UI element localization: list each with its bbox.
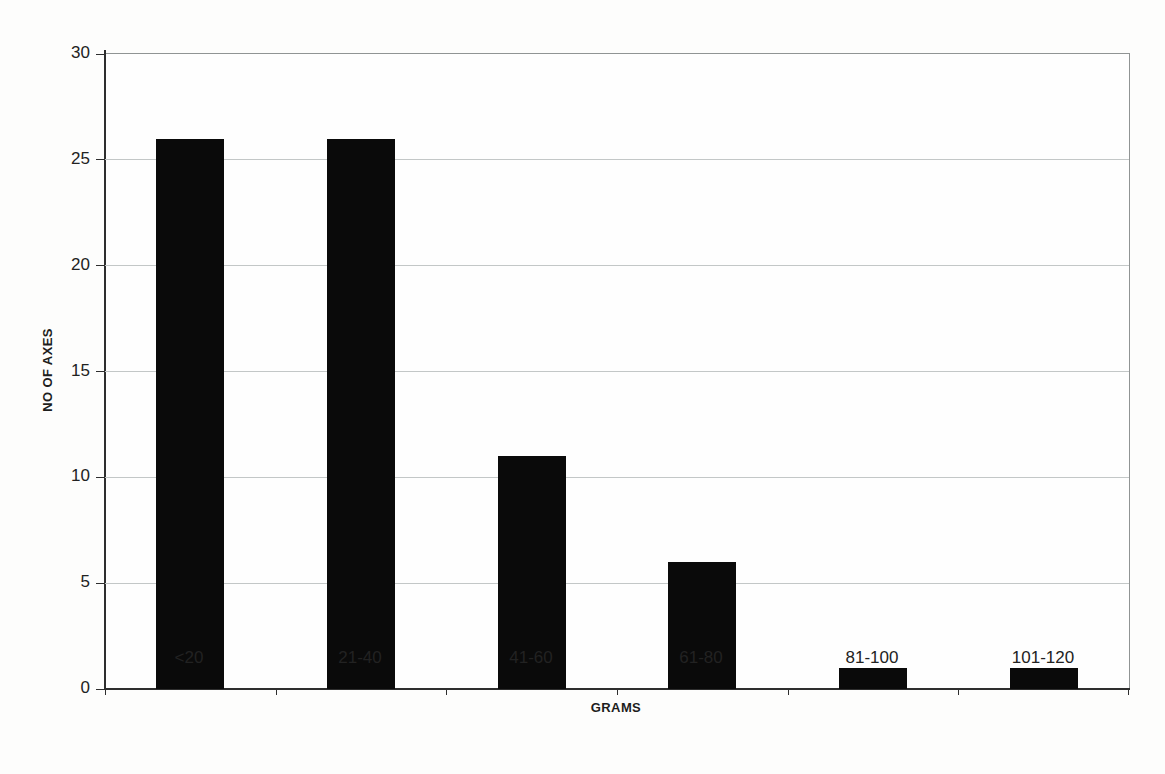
bar-81-100 bbox=[839, 668, 907, 689]
y-tick-mark-25 bbox=[96, 159, 105, 160]
x-category-label-<20: <20 bbox=[175, 648, 204, 668]
x-category-label-61-80: 61-80 bbox=[679, 648, 722, 668]
gridline-25 bbox=[105, 159, 1129, 160]
x-tick-mark-3 bbox=[617, 689, 618, 695]
bar-chart-figure: NO OF AXES GRAMS 051015202530<2021-4041-… bbox=[0, 0, 1165, 774]
y-tick-mark-10 bbox=[96, 477, 105, 478]
bar-<20 bbox=[156, 139, 224, 689]
x-category-label-41-60: 41-60 bbox=[509, 648, 552, 668]
y-tick-label-25: 25 bbox=[50, 149, 90, 169]
y-tick-label-30: 30 bbox=[50, 43, 90, 63]
gridline-20 bbox=[105, 265, 1129, 266]
bar-101-120 bbox=[1010, 668, 1078, 689]
y-tick-label-15: 15 bbox=[50, 361, 90, 381]
y-tick-mark-0 bbox=[96, 689, 105, 690]
bar-61-80 bbox=[668, 562, 736, 689]
y-tick-mark-20 bbox=[96, 265, 105, 266]
x-tick-mark-0 bbox=[105, 689, 106, 695]
gridline-15 bbox=[105, 371, 1129, 372]
bar-21-40 bbox=[327, 139, 395, 689]
x-tick-mark-2 bbox=[446, 689, 447, 695]
x-tick-mark-end bbox=[1128, 689, 1129, 695]
y-tick-mark-30 bbox=[96, 54, 105, 55]
y-tick-label-20: 20 bbox=[50, 255, 90, 275]
x-category-label-81-100: 81-100 bbox=[846, 648, 899, 668]
gridline-10 bbox=[105, 477, 1129, 478]
plot-area bbox=[104, 53, 1130, 690]
x-category-label-21-40: 21-40 bbox=[338, 648, 381, 668]
x-axis-title: GRAMS bbox=[591, 700, 641, 715]
x-tick-mark-1 bbox=[276, 689, 277, 695]
x-category-label-101-120: 101-120 bbox=[1012, 648, 1074, 668]
y-tick-mark-15 bbox=[96, 371, 105, 372]
y-axis-line bbox=[104, 50, 106, 689]
y-tick-mark-5 bbox=[96, 583, 105, 584]
gridline-5 bbox=[105, 583, 1129, 584]
y-tick-label-5: 5 bbox=[50, 572, 90, 592]
y-tick-label-10: 10 bbox=[50, 466, 90, 486]
x-tick-mark-4 bbox=[788, 689, 789, 695]
x-tick-mark-5 bbox=[958, 689, 959, 695]
y-tick-label-0: 0 bbox=[50, 678, 90, 698]
